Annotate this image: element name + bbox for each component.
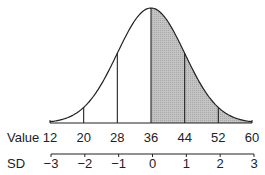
- sd-tick: 2: [217, 156, 224, 171]
- value-tick-labels: 12 20 28 36 44 52 60: [43, 130, 259, 145]
- sd-tick: 0: [149, 156, 156, 171]
- value-tick: 12: [43, 130, 57, 145]
- normal-distribution-chart: Value SD 12 20 28 36 44 52 60 −3 −2 −1 0…: [0, 0, 265, 175]
- sd-axis-label: SD: [7, 156, 25, 171]
- sd-tick: −3: [44, 156, 59, 171]
- sd-tick: −2: [77, 156, 92, 171]
- value-tick: 20: [76, 130, 90, 145]
- sd-tick: 1: [183, 156, 190, 171]
- value-tick: 52: [211, 130, 225, 145]
- sd-tick-labels: −3 −2 −1 0 1 2 3: [44, 156, 258, 171]
- value-tick: 44: [177, 130, 191, 145]
- value-tick: 60: [245, 130, 259, 145]
- shaded-area-above-mean: [151, 8, 252, 123]
- value-tick: 28: [110, 130, 124, 145]
- value-axis-label: Value: [7, 130, 39, 145]
- sd-tick: −1: [111, 156, 126, 171]
- sd-tick: 3: [250, 156, 257, 171]
- value-tick: 36: [144, 130, 158, 145]
